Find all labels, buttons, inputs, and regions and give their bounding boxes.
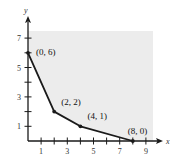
vertex-point <box>52 110 56 114</box>
vertex-label: (8, 0) <box>128 126 148 136</box>
y-tick-label: 5 <box>17 64 21 73</box>
feasible-region-chart: 13579 1357 (0, 6)(2, 2)(4, 1)(8, 0) x y <box>0 0 175 168</box>
vertex-point <box>26 51 30 55</box>
x-axis-label: x <box>165 137 170 146</box>
x-tick-label: 9 <box>144 147 148 156</box>
vertex-point <box>131 139 135 143</box>
x-tick-label: 3 <box>65 147 69 156</box>
x-tick-label: 1 <box>39 147 43 156</box>
y-axis-label: y <box>23 6 28 15</box>
y-tick-label: 7 <box>17 34 21 43</box>
vertex-point <box>79 124 83 128</box>
y-tick-label: 3 <box>17 93 21 102</box>
vertex-label: (0, 6) <box>36 47 56 57</box>
x-tick-label: 5 <box>92 147 96 156</box>
x-tick-label: 7 <box>118 147 122 156</box>
vertex-label: (4, 1) <box>87 111 107 121</box>
y-axis-arrow-icon <box>25 16 31 23</box>
y-tick-label: 1 <box>17 122 21 131</box>
vertex-label: (2, 2) <box>61 97 80 107</box>
